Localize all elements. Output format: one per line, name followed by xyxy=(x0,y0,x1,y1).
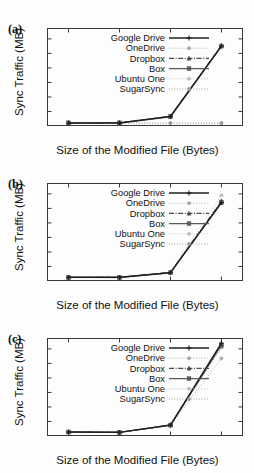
line-chart-b: 00.20.40.60.811.21K10K100K1MGoogle Drive… xyxy=(47,183,243,281)
legend-label: Dropbox xyxy=(130,364,165,374)
data-point-marker xyxy=(220,194,223,197)
figure-sync-traffic: (a) Sync Traffic (MB) 00.20.40.60.811.21… xyxy=(0,0,254,473)
legend-label: Google Drive xyxy=(111,343,165,353)
data-point-marker xyxy=(220,357,223,360)
x-axis-title-a: Size of the Modified File (Bytes) xyxy=(30,144,245,156)
legend-marker-sample xyxy=(187,397,190,400)
legend-marker-sample xyxy=(187,387,190,390)
chart-panel-b: (b) Sync Traffic (MB) 00.20.40.60.811.21… xyxy=(0,163,254,320)
legend-label: Dropbox xyxy=(130,209,165,219)
legend-label: Box xyxy=(149,219,165,229)
legend-label: SugarSync xyxy=(120,394,166,404)
legend-label: SugarSync xyxy=(120,239,166,249)
y-axis-title-a: Sync Traffic (MB) xyxy=(13,17,25,127)
legend-label: Google Drive xyxy=(111,33,165,43)
legend-label: Google Drive xyxy=(111,188,165,198)
legend-label: Ubuntu One xyxy=(115,384,165,394)
legend-marker-sample xyxy=(187,242,190,245)
legend-marker-sample xyxy=(187,67,191,71)
x-axis-title-b: Size of the Modified File (Bytes) xyxy=(30,299,245,311)
line-chart-a: 00.20.40.60.811.21K10K100K1MGoogle Drive… xyxy=(47,28,243,126)
y-axis-title-b: Sync Traffic (MB) xyxy=(13,172,25,282)
legend-label: OneDrive xyxy=(126,43,165,53)
legend-marker-sample xyxy=(187,36,192,41)
plot-area-c: 00.20.40.60.811.21K10K100K1MGoogle Drive… xyxy=(47,338,243,436)
legend-marker-sample xyxy=(187,232,190,235)
legend-marker-sample xyxy=(187,87,190,90)
line-chart-c: 00.20.40.60.811.21K10K100K1MGoogle Drive… xyxy=(47,338,243,436)
legend-marker-sample xyxy=(187,346,192,351)
legend-label: SugarSync xyxy=(120,84,166,94)
x-axis-title-c: Size of the Modified File (Bytes) xyxy=(30,454,245,466)
y-axis-title-c: Sync Traffic (MB) xyxy=(13,327,25,437)
legend-label: Box xyxy=(149,374,165,384)
legend-label: Box xyxy=(149,64,165,74)
legend-marker-sample xyxy=(187,47,190,50)
legend-marker-sample xyxy=(187,357,190,360)
legend-label: OneDrive xyxy=(126,198,165,208)
legend-label: Ubuntu One xyxy=(115,74,165,84)
legend-label: Ubuntu One xyxy=(115,229,165,239)
legend-marker-sample xyxy=(187,202,190,205)
chart-panel-c: (c) Sync Traffic (MB) 00.20.40.60.811.21… xyxy=(0,318,254,473)
legend-marker-sample xyxy=(187,222,191,226)
legend-label: Dropbox xyxy=(130,54,165,64)
legend-marker-sample xyxy=(187,191,192,196)
plot-area-a: 00.20.40.60.811.21K10K100K1MGoogle Drive… xyxy=(47,28,243,126)
chart-panel-a: (a) Sync Traffic (MB) 00.20.40.60.811.21… xyxy=(0,8,254,165)
data-point-marker xyxy=(220,121,223,124)
legend-marker-sample xyxy=(187,377,191,381)
data-point-marker xyxy=(169,121,172,124)
legend-label: OneDrive xyxy=(126,353,165,363)
plot-area-b: 00.20.40.60.811.21K10K100K1MGoogle Drive… xyxy=(47,183,243,281)
legend-marker-sample xyxy=(187,77,190,80)
